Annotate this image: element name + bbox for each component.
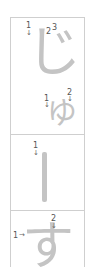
card-divider	[10, 210, 85, 211]
stroke-arrow-icon: →	[19, 232, 25, 239]
stroke-arrow-icon: ↓	[67, 96, 73, 103]
stroke-arrow-icon: ↓	[44, 102, 50, 109]
stroke-arrow-icon: ↓	[33, 150, 39, 157]
stroke-number: 1	[13, 232, 18, 240]
stroke-number: 3	[52, 24, 57, 32]
character-glyph: す	[22, 220, 74, 271]
stroke-arrow-icon: ↓	[51, 223, 57, 230]
card-divider	[10, 134, 85, 135]
character-glyph: じ	[27, 26, 81, 80]
character-glyph-bar	[42, 152, 47, 202]
stroke-arrow-icon: ↓	[26, 30, 32, 37]
stroke-number: 2	[46, 28, 51, 36]
